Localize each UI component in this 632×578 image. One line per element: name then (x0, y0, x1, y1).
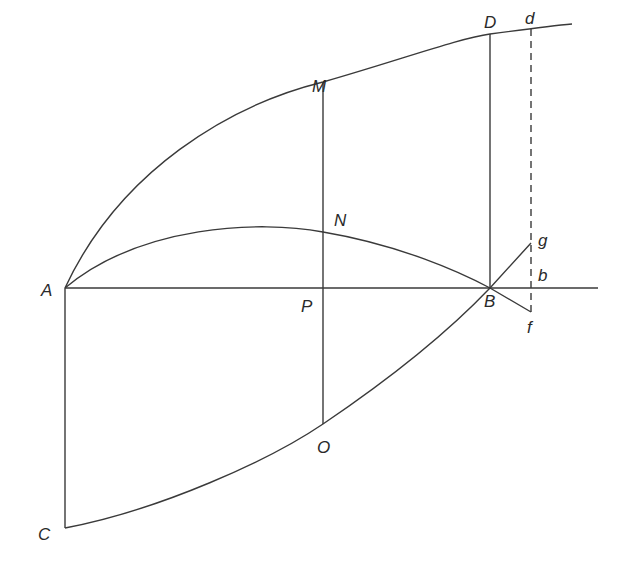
label-N: N (334, 211, 347, 230)
label-C: C (38, 525, 51, 544)
label-P: P (301, 297, 313, 316)
upper-curve-AMD (65, 24, 572, 288)
geometric-diagram: A B C D M N O P d g b f (0, 0, 632, 578)
middle-curve-ANB (65, 227, 531, 312)
label-D: D (484, 13, 496, 32)
label-A: A (40, 281, 52, 300)
label-B: B (484, 292, 495, 311)
label-d: d (525, 9, 535, 28)
label-M: M (312, 77, 327, 96)
label-g: g (538, 231, 548, 250)
lower-curve-COB (65, 243, 531, 528)
label-f: f (527, 318, 534, 337)
label-b: b (538, 266, 547, 285)
label-O: O (317, 438, 330, 457)
